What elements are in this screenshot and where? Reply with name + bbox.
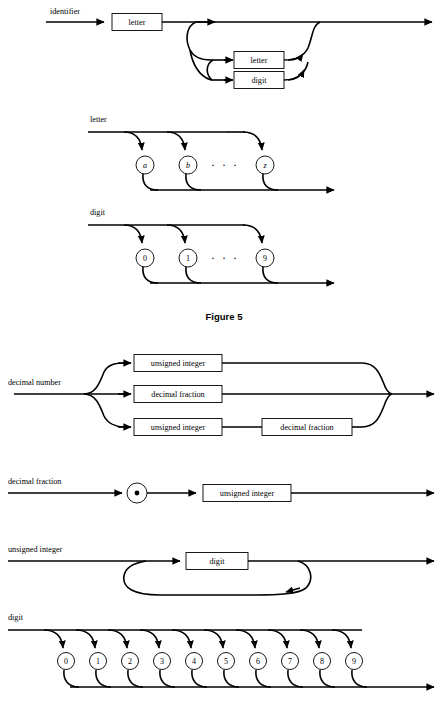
wire-digit-upper-exit-9 [263,267,278,283]
box-label-decnum-decimal-fraction-2: decimal fraction [151,390,204,399]
wire-digit-lower-branch-3 [140,630,159,648]
wire-digit-lower-exit-0 [64,670,79,687]
wire-digit-upper-exit-0 [143,267,158,283]
terminal-label-3: 3 [160,657,164,666]
wire-letter-exit-a [143,174,158,190]
box-label-decnum-decimal-fraction-3: decimal fraction [280,423,333,432]
ellipsis-letters: · · · [211,158,239,172]
terminal-label-9-upper: 9 [263,254,267,263]
ellipsis-digits-upper: · · · [211,251,239,265]
wire-digit-lower-exit-5 [224,670,239,687]
syntax-diagram-figure: identifier letter letter digit [0,0,448,710]
wire-decnum-row1-merge [362,363,392,394]
diagram-label-digit-upper: digit [90,208,106,217]
wire-digit-lower-exit-8 [320,670,335,687]
diagram-letter: letter a b · · · z [88,115,334,190]
terminal-label-9: 9 [352,657,356,666]
wire-digit-lower-exit-1 [96,670,111,687]
decimal-point-dot-icon [135,491,140,496]
box-label-uint-digit: digit [209,557,225,566]
wire-digit-lower-exit-4 [192,670,207,687]
wire-decnum-fork-up [84,363,126,394]
terminal-label-7: 7 [288,657,292,666]
box-label-decnum-unsigned-integer-3: unsigned integer [151,423,206,432]
terminal-label-5: 5 [224,657,228,666]
box-label-letter-loop: letter [251,56,268,65]
diagram-digit-upper: digit 0 1 · · · 9 [88,208,334,283]
wire-digit-lower-branch-7 [268,630,287,648]
wire-digit-lower-branch-9 [332,630,351,648]
box-label-letter-first: letter [129,18,146,27]
wire-letter-branch-a [124,132,142,150]
wire-digit-lower-branch-6 [236,630,255,648]
wire-digit-lower-branch-2 [108,630,127,648]
wire-digit-upper-branch-0 [124,225,142,243]
wire-digit-lower-branch-8 [300,630,319,648]
wire-letter-exit-z [263,174,278,190]
wire-letter-exit-b [186,174,201,190]
wire-digit-upper-branch-1 [167,225,185,243]
diagram-decimal-number: decimal number unsigned integer decimal … [8,355,434,436]
diagram-label-letter: letter [90,115,107,124]
terminal-label-a: a [143,161,147,170]
box-label-decfrac-unsigned-integer: unsigned integer [220,489,275,498]
terminal-label-2: 2 [128,657,132,666]
diagram-label-unsigned-integer: unsigned integer [8,545,63,554]
wire-digit-lower-exit-7 [288,670,303,687]
wire-decnum-fork-down [84,394,126,427]
figure-caption: Figure 5 [206,311,244,322]
diagram-decimal-fraction: decimal fraction unsigned integer [8,477,434,503]
wire-identifier-branch-join [207,60,213,80]
wire-digit-lower-exit-6 [256,670,271,687]
terminal-label-1-upper: 1 [186,254,190,263]
wire-digit-lower-exit-9 [352,670,367,687]
diagram-label-decimal-number: decimal number [8,378,61,387]
box-label-decnum-unsigned-integer-1: unsigned integer [151,359,206,368]
terminal-label-0: 0 [64,657,68,666]
terminal-label-b: b [186,161,190,170]
terminal-label-0-upper: 0 [143,254,147,263]
diagram-digit-lower: digit 0 1 2 3 4 [8,613,434,687]
box-label-digit-loop: digit [251,76,267,85]
wire-digit-lower-exit-3 [160,670,175,687]
wire-identifier-return-digit [284,62,308,80]
wire-digit-lower-branch-5 [204,630,223,648]
terminal-label-8: 8 [320,657,324,666]
wire-digit-lower-branch-0 [44,630,63,648]
wire-digit-lower-branch-4 [172,630,191,648]
wire-digit-lower-branch-1 [76,630,95,648]
wire-letter-branch-b [167,132,185,150]
diagram-unsigned-integer: unsigned integer digit [8,545,434,595]
terminal-label-1: 1 [96,657,100,666]
wire-digit-upper-exit-1 [186,267,201,283]
terminal-label-4: 4 [192,657,196,666]
wire-digit-upper-branch-9 [243,225,262,243]
diagram-label-identifier: identifier [50,7,80,16]
wire-decnum-row3-merge [362,394,392,427]
wire-letter-branch-z [243,132,262,150]
wire-digit-lower-exit-2 [128,670,143,687]
terminal-label-6: 6 [256,657,260,666]
syntax-diagram-canvas: identifier letter letter digit [0,0,448,710]
diagram-identifier: identifier letter letter digit [46,7,432,89]
arrow-identifier-return-digit [288,70,304,80]
diagram-label-decimal-fraction: decimal fraction [8,477,61,486]
diagram-label-digit-lower: digit [8,613,24,622]
